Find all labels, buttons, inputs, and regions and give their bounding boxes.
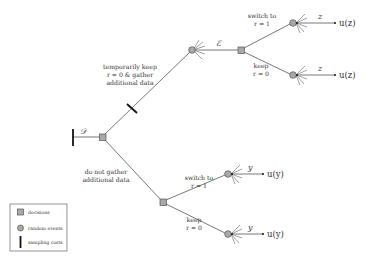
svg-text:keep: keep	[186, 216, 201, 224]
square-decision-icon	[18, 209, 24, 215]
no-gather-branch-label: do not gather additional data	[82, 168, 130, 183]
legend-label-random-events: random events	[28, 226, 63, 231]
chance-node-upper-keep[interactable]	[290, 72, 297, 79]
svg-text:additional data: additional data	[82, 176, 130, 183]
svg-text:r = 0: r = 0	[253, 70, 269, 77]
chance-node-evidence[interactable]	[189, 47, 196, 54]
chance-node-upper-switch[interactable]	[290, 20, 297, 27]
chance-node-lower-switch[interactable]	[225, 171, 232, 178]
outcome-var-lower-top: y	[247, 163, 253, 172]
legend-label-decisions: decisions	[28, 210, 50, 215]
svg-text:r = 0: r = 0	[186, 224, 202, 231]
svg-text:temporarily keep: temporarily keep	[103, 63, 157, 71]
utility-lower-bottom: u(y)	[267, 229, 284, 239]
upper-keep-label: keep r = 0	[253, 62, 269, 77]
lower-decision-node[interactable]	[160, 199, 167, 206]
circle-random-event-icon	[18, 225, 24, 231]
terminal-dot-lower-top	[262, 173, 264, 175]
root-decision-node[interactable]	[100, 134, 107, 141]
gather-branch-label: temporarily keep r = 0 & gather addition…	[103, 63, 157, 86]
tree-edges	[73, 23, 335, 234]
utility-upper-bottom: u(z)	[339, 70, 356, 80]
outcome-var-lower-bottom: y	[247, 223, 253, 232]
svg-text:r = 1: r = 1	[254, 20, 270, 27]
svg-text:r = 0 & gather: r = 0 & gather	[107, 71, 153, 79]
event-label: ℰ	[216, 39, 222, 48]
terminal-dot-upper-bottom	[334, 74, 336, 76]
lower-keep-label: keep r = 0	[186, 216, 202, 231]
utility-upper-top: u(z)	[339, 18, 356, 28]
upper-switch-label: switch to r = 1	[248, 12, 277, 27]
upper-decision-node[interactable]	[238, 47, 245, 54]
svg-text:do not gather: do not gather	[85, 168, 128, 176]
chance-node-lower-keep[interactable]	[225, 231, 232, 238]
utility-lower-top: u(y)	[267, 169, 284, 179]
svg-text:switch to: switch to	[248, 12, 277, 19]
root-label: 𝒟	[80, 127, 88, 136]
legend: decisions random events sampling costs	[10, 204, 67, 251]
decision-tree-diagram: 𝒟 temporarily keep r = 0 & gather additi…	[0, 0, 366, 264]
svg-text:additional data: additional data	[106, 79, 154, 86]
terminal-dot-upper-top	[334, 22, 336, 24]
outcome-var-upper-bottom: z	[317, 64, 323, 73]
svg-text:r = 1: r = 1	[191, 182, 207, 189]
outcome-var-upper-top: z	[317, 12, 323, 21]
svg-text:keep: keep	[253, 62, 268, 70]
terminal-dot-lower-bottom	[262, 233, 264, 235]
svg-text:switch to: switch to	[185, 174, 214, 181]
